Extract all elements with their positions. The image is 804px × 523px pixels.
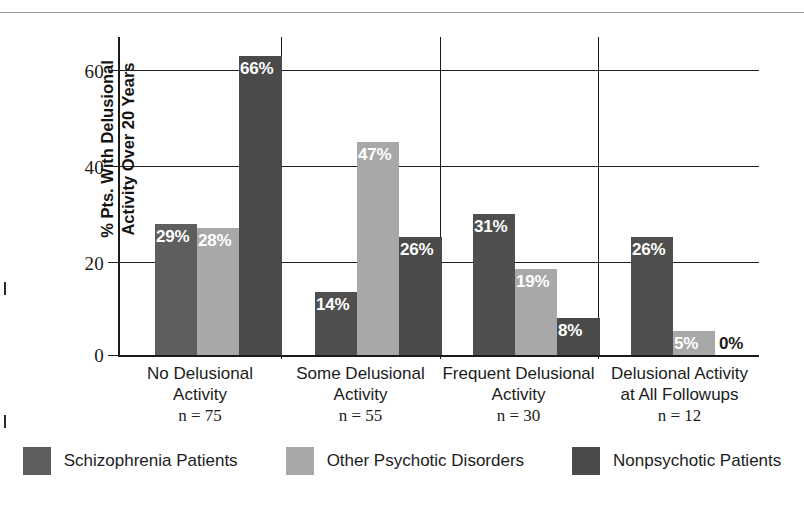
scan-edge-tick [4,415,6,428]
bar-value-label: 28% [198,231,231,251]
y-tick-label-40: 40 [84,157,104,179]
y-tick-mark-20 [108,262,118,263]
y-tick-mark-60 [108,70,118,71]
y-tick-mark-40 [108,166,118,167]
x-category-3-n: n = 30 [438,405,599,426]
x-category-1-n: n = 75 [120,405,280,426]
bar-g3-nonpsychotic[interactable]: 8% [557,318,600,355]
x-axis-line [118,355,759,357]
bar-value-label: 5% [674,334,698,354]
x-category-4: Delusional Activity at All Followups n =… [598,363,761,426]
bar-value-label: 8% [558,321,582,341]
y-tick-40: 40 [72,157,104,177]
scan-edge-tick [4,282,6,295]
legend-item-nonpsychotic[interactable]: Nonpsychotic Patients [572,447,781,475]
x-category-1-line2: Activity [120,384,280,405]
x-category-4-line1: Delusional Activity [598,363,761,384]
bar-g2-other-psychotic[interactable]: 47% [357,142,399,355]
legend-label: Schizophrenia Patients [64,451,238,471]
chart-legend: Schizophrenia Patients Other Psychotic D… [0,447,804,475]
bar-value-label: 29% [156,227,189,247]
y-tick-60: 60 [72,61,104,81]
bar-value-label: 31% [474,217,507,237]
bar-value-label: 47% [358,145,391,165]
x-category-2-line2: Activity [281,384,440,405]
x-category-3-line2: Activity [438,384,599,405]
y-tick-label-60: 60 [84,61,104,83]
legend-label: Other Psychotic Disorders [327,451,524,471]
legend-item-schizophrenia[interactable]: Schizophrenia Patients [23,447,238,475]
y-tick-label-0: 0 [94,345,104,367]
bar-g4-other-psychotic[interactable]: 5% [673,331,715,355]
x-category-3: Frequent Delusional Activity n = 30 [438,363,599,426]
bar-value-label: 66% [240,59,273,79]
bar-g4-schizophrenia[interactable]: 26% [631,237,673,355]
chart-figure: % Pts. With Delusional Activity Over 20 … [0,0,804,523]
x-category-2: Some Delusional Activity n = 55 [281,363,440,426]
bar-g1-nonpsychotic[interactable]: 66% [239,56,282,355]
x-category-3-line1: Frequent Delusional [438,363,599,384]
bar-g3-schizophrenia[interactable]: 31% [473,214,515,355]
x-category-2-n: n = 55 [281,405,440,426]
bar-g2-nonpsychotic[interactable]: 26% [399,237,442,355]
x-category-1: No Delusional Activity n = 75 [120,363,280,426]
legend-swatch-icon [572,447,600,475]
bar-value-label: 14% [316,295,349,315]
y-tick-label-20: 20 [84,253,104,275]
bar-value-label: 19% [516,272,549,292]
bar-value-label: 26% [632,240,665,260]
y-tick-0: 0 [72,345,104,365]
x-category-1-line1: No Delusional [120,363,280,384]
y-axis-title-line1: % Pts. With Delusional [98,60,116,238]
x-category-4-n: n = 12 [598,405,761,426]
bar-g2-schizophrenia[interactable]: 14% [315,292,357,355]
y-tick-20: 20 [72,253,104,273]
legend-swatch-icon [23,447,51,475]
bar-value-label: 0% [719,334,743,354]
plot-area: 29% 28% 66% 14% 47% 26% 31% 19% 8% 26% [118,37,758,355]
legend-label: Nonpsychotic Patients [613,451,781,471]
x-category-4-line2: at All Followups [598,384,761,405]
x-category-2-line1: Some Delusional [281,363,440,384]
bar-g1-other-psychotic[interactable]: 28% [197,228,239,355]
y-tick-mark-0 [108,355,118,356]
legend-swatch-icon [286,447,314,475]
legend-item-other-psychotic[interactable]: Other Psychotic Disorders [286,447,524,475]
bar-g4-nonpsychotic[interactable]: 0% [717,354,760,355]
bar-value-label: 26% [400,240,433,260]
bar-g3-other-psychotic[interactable]: 19% [515,269,557,355]
bar-g1-schizophrenia[interactable]: 29% [155,224,197,355]
